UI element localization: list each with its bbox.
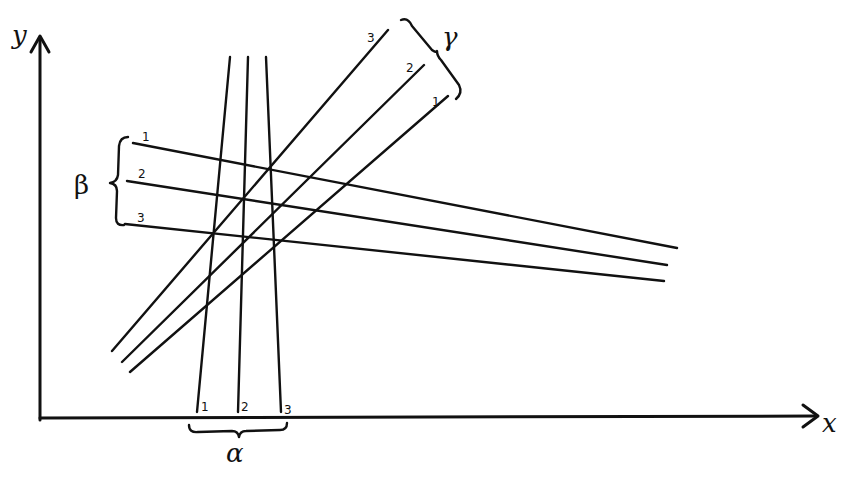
gamma-symbol: γ <box>442 22 458 52</box>
beta-family: 1 2 3 β <box>74 130 677 281</box>
gamma-line-2-label: 2 <box>406 61 414 75</box>
line-families-diagram: y x 1 2 3 α 1 2 3 β 3 2 1 γ <box>0 0 857 478</box>
y-axis-label: y <box>11 20 27 50</box>
beta-line-3-label: 3 <box>137 211 145 225</box>
axes: y x <box>11 20 837 438</box>
gamma-line-1-label: 1 <box>432 95 440 109</box>
beta-line-1-label: 1 <box>142 130 150 144</box>
gamma-line-3-label: 3 <box>367 31 375 45</box>
alpha-line-3-label: 3 <box>284 403 292 417</box>
gamma-line-2 <box>122 65 424 362</box>
alpha-line-2 <box>238 57 248 412</box>
gamma-line-1 <box>130 96 448 372</box>
alpha-line-3 <box>266 57 281 412</box>
beta-brace-icon <box>110 137 128 225</box>
alpha-brace-icon <box>189 423 287 437</box>
alpha-line-2-label: 2 <box>241 400 249 414</box>
gamma-line-3 <box>112 30 388 351</box>
beta-symbol: β <box>74 170 89 200</box>
alpha-line-1-label: 1 <box>201 400 209 414</box>
x-axis-label: x <box>822 408 837 438</box>
alpha-family: 1 2 3 α <box>189 57 292 468</box>
alpha-symbol: α <box>226 438 244 468</box>
x-axis <box>40 416 815 418</box>
beta-line-2-label: 2 <box>138 167 146 181</box>
